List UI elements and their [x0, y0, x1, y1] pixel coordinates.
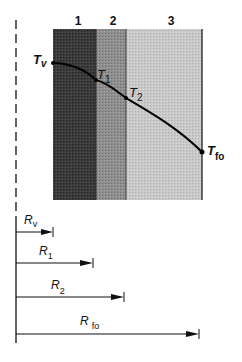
resistance-arrow-rv: Rv: [16, 213, 53, 237]
label-rfo: Rfo: [80, 314, 99, 331]
label-tfo: Tfo: [207, 143, 224, 162]
label-r2: R2: [51, 278, 65, 296]
layer-label-2: 2: [110, 14, 117, 28]
resistance-arrow-r1: R1: [16, 244, 93, 268]
resistance-arrow-r2: R2: [16, 278, 124, 302]
label-rv: Rv: [24, 213, 38, 229]
resistance-arrow-rfo: Rfo: [16, 314, 199, 339]
label-r1: R1: [39, 244, 53, 261]
label-tv: Tv: [33, 52, 48, 69]
layer-3: [126, 29, 202, 200]
point-tfo: [200, 150, 205, 155]
layer-1: [53, 29, 96, 200]
thermal-resistance-diagram: 1 2 3 Tv T1 T2 Tfo Rv R1 R2: [0, 0, 242, 362]
layer-label-1: 1: [75, 14, 82, 28]
layer-label-3: 3: [168, 14, 175, 28]
point-tv: [51, 61, 55, 65]
layer-2: [96, 29, 126, 200]
wall-layers: [53, 29, 202, 200]
point-t2: [124, 96, 128, 100]
